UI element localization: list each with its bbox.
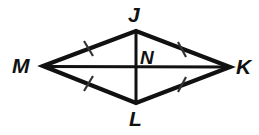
geometry-figure: J M K L N bbox=[0, 0, 259, 135]
vertex-label-n: N bbox=[140, 48, 154, 67]
vertex-label-l: L bbox=[129, 108, 142, 129]
vertex-label-m: M bbox=[12, 55, 30, 76]
vertex-label-k: K bbox=[236, 56, 251, 77]
vertex-label-j: J bbox=[128, 4, 140, 25]
